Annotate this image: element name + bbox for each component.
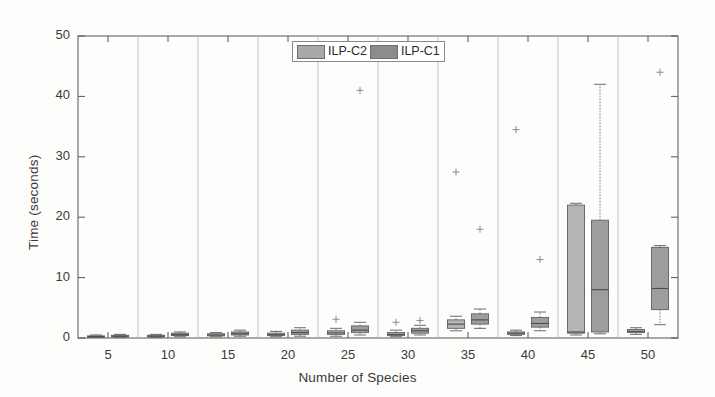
boxplot-ILP-C1-10 bbox=[172, 332, 189, 337]
boxplot-ILP-C2-25 bbox=[328, 316, 345, 336]
legend-label-ilp-c1: ILP-C1 bbox=[401, 45, 440, 58]
y-tick-label: 10 bbox=[36, 269, 70, 284]
boxplot-ILP-C1-50 bbox=[652, 69, 669, 325]
boxplot-ILP-C2-10 bbox=[148, 334, 165, 337]
box-body bbox=[568, 205, 585, 333]
boxplot-ILP-C1-35 bbox=[472, 226, 489, 329]
boxplot-ILP-C2-45 bbox=[568, 203, 585, 335]
y-tick-label: 50 bbox=[36, 27, 70, 42]
legend-label-ilp-c2: ILP-C2 bbox=[328, 45, 367, 58]
legend-entry-1: ILP-C1 bbox=[370, 45, 440, 59]
box-body bbox=[532, 317, 549, 327]
boxplot-ILP-C1-20 bbox=[292, 328, 309, 336]
x-tick-label: 50 bbox=[628, 347, 668, 362]
boxplot-ILP-C1-45 bbox=[592, 84, 609, 333]
boxplot-ILP-C1-25 bbox=[352, 87, 369, 335]
box-body bbox=[352, 326, 369, 333]
boxplot-ILP-C1-15 bbox=[232, 330, 249, 336]
x-tick-label: 40 bbox=[508, 347, 548, 362]
legend-swatch-ilp-c1 bbox=[370, 45, 398, 59]
box-body bbox=[592, 220, 609, 332]
y-tick-label: 0 bbox=[36, 329, 70, 344]
boxplot-ILP-C1-30 bbox=[412, 317, 429, 335]
x-tick-label: 10 bbox=[148, 347, 188, 362]
boxplot-ILP-C1-40 bbox=[532, 256, 549, 331]
boxplot-ILP-C2-35 bbox=[448, 168, 465, 330]
chart-legend: ILP-C2 ILP-C1 bbox=[292, 41, 445, 62]
boxplot-ILP-C1-5 bbox=[112, 334, 129, 337]
box-body bbox=[652, 247, 669, 309]
box-body bbox=[472, 314, 489, 324]
boxplot-ILP-C2-50 bbox=[628, 328, 645, 335]
x-tick-label: 25 bbox=[328, 347, 368, 362]
y-tick-label: 30 bbox=[36, 148, 70, 163]
x-tick-label: 15 bbox=[208, 347, 248, 362]
boxplot-ILP-C2-20 bbox=[268, 331, 285, 336]
x-tick-label: 30 bbox=[388, 347, 428, 362]
x-tick-label: 5 bbox=[88, 347, 128, 362]
x-tick-label: 20 bbox=[268, 347, 308, 362]
x-tick-label: 45 bbox=[568, 347, 608, 362]
legend-swatch-ilp-c2 bbox=[297, 45, 325, 59]
boxplot-ILP-C2-5 bbox=[88, 335, 105, 338]
boxplot-figure: Time (seconds) Number of Species 0102030… bbox=[0, 0, 715, 397]
y-tick-label: 20 bbox=[36, 208, 70, 223]
boxplot-ILP-C2-30 bbox=[388, 319, 405, 337]
y-tick-label: 40 bbox=[36, 87, 70, 102]
legend-entry-0: ILP-C2 bbox=[297, 45, 367, 59]
boxplot-ILP-C2-15 bbox=[208, 333, 225, 337]
x-tick-label: 35 bbox=[448, 347, 488, 362]
boxplot-ILP-C2-40 bbox=[508, 126, 525, 335]
